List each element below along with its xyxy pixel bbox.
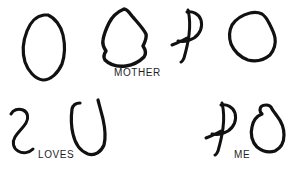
caption-me: ME <box>234 150 250 160</box>
scribble-writing-figure: MOTHER LOVES ME <box>0 0 288 176</box>
caption-mother: MOTHER <box>114 68 161 78</box>
caption-loves: LOVES <box>38 150 74 160</box>
